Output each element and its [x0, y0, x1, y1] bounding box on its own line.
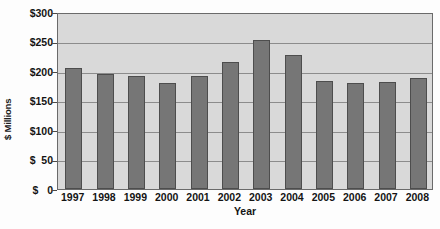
y-axis-tick-label: $250	[13, 37, 53, 48]
bar	[97, 74, 114, 189]
y-axis-tick-mark	[52, 161, 57, 162]
bar	[191, 76, 208, 189]
x-axis-tick-label: 2002	[214, 191, 245, 204]
y-axis-tick-mark	[52, 190, 57, 191]
y-axis-tick-mark	[52, 102, 57, 103]
y-axis-tick-label: $200	[13, 67, 53, 78]
x-axis-tick-labels: 1997199819992000200120022003200420052006…	[57, 191, 433, 205]
x-axis-tick-label: 2007	[370, 191, 401, 204]
x-axis-tick-label: 2004	[276, 191, 307, 204]
x-axis-tick-label: 1998	[88, 191, 119, 204]
x-axis-tick-label: 2001	[182, 191, 213, 204]
plot-area	[57, 13, 433, 190]
bar-chart-figure: $ Millions $ 0$ 50$100$150$200$250$300 1…	[0, 0, 440, 229]
y-axis-tick-label: $ 50	[13, 155, 53, 166]
y-axis-tick-labels: $ 0$ 50$100$150$200$250$300	[14, 0, 55, 229]
bar	[347, 83, 364, 189]
bar	[316, 81, 333, 189]
x-axis-tick-label: 2006	[339, 191, 370, 204]
y-axis-tick-mark	[52, 43, 57, 44]
y-axis-tick-mark	[52, 131, 57, 132]
bar	[159, 83, 176, 189]
y-axis-title: $ Millions	[0, 74, 14, 164]
bars-layer	[58, 14, 432, 189]
bar	[285, 55, 302, 189]
x-axis-tick-label: 2005	[308, 191, 339, 204]
y-axis-tick-mark	[52, 72, 57, 73]
y-axis-tick-label: $300	[13, 8, 53, 19]
bar	[253, 40, 270, 189]
bar	[379, 82, 396, 189]
x-axis-title: Year	[57, 205, 433, 217]
x-axis-tick-label: 2008	[402, 191, 433, 204]
x-axis-tick-label: 2003	[245, 191, 276, 204]
x-axis-tick-label: 1999	[120, 191, 151, 204]
x-axis-tick-label: 2000	[151, 191, 182, 204]
bar	[65, 68, 82, 189]
y-axis-tick-mark	[52, 13, 57, 14]
bar	[222, 62, 239, 189]
y-axis-tick-label: $150	[13, 96, 53, 107]
bar	[410, 78, 427, 189]
x-axis-tick-label: 1997	[57, 191, 88, 204]
y-axis-tick-label: $ 0	[13, 185, 53, 196]
y-axis-tick-label: $100	[13, 126, 53, 137]
bar	[128, 76, 145, 189]
